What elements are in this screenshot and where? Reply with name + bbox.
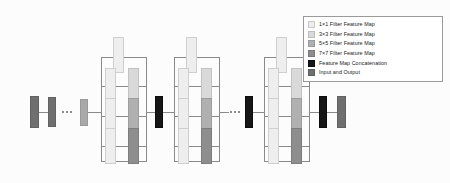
legend-swatch-concatenation: [308, 60, 315, 67]
legend-swatch-filter-1x1: [308, 21, 315, 28]
module-3-branch-7x7-reduce: [268, 128, 279, 164]
legend-label-filter-5x5: 5×5 Filter Feature Map: [319, 40, 375, 47]
module-1-branch-7x7-reduce: [105, 128, 116, 164]
legend-swatch-filter-5x5: [308, 40, 315, 47]
legend-label-concatenation: Feature Map Concatenation: [319, 60, 387, 67]
legend-label-filter-3x3: 3×3 Filter Feature Map: [319, 31, 375, 38]
ellipsis-module-2-to-3: [230, 111, 240, 113]
legend-swatch-filter-3x3: [308, 31, 315, 38]
input-block: [30, 96, 39, 128]
legend-item-filter-1x1: 1×1 Filter Feature Map: [308, 20, 438, 30]
wire-module-2-to-ellipsis: [219, 112, 229, 113]
wire-premodule-to-module-1: [88, 112, 101, 113]
module-2-branch-7x7-conv: [201, 128, 212, 164]
module-1-top-rail: [101, 57, 147, 58]
legend-label-filter-7x7: 7×7 Filter Feature Map: [319, 50, 375, 57]
legend-label-filter-1x1: 1×1 Filter Feature Map: [319, 21, 375, 28]
wire-concat-2-to-module-3: [253, 112, 264, 113]
legend-swatch-input-output: [308, 69, 315, 76]
figure-canvas: 1×1 Filter Feature Map 3×3 Filter Featur…: [0, 0, 450, 183]
pre-module-block: [80, 99, 88, 126]
legend-item-input-output: Input and Output: [308, 68, 438, 78]
legend-swatch-filter-7x7: [308, 50, 315, 57]
legend-item-filter-3x3: 3×3 Filter Feature Map: [308, 30, 438, 40]
legend-item-concatenation: Feature Map Concatenation: [308, 58, 438, 68]
wire-input-to-early: [39, 112, 48, 113]
concat-after-module-3: [319, 96, 327, 128]
module-2-top-rail: [174, 57, 220, 58]
early-layer-block: [48, 97, 56, 127]
concat-after-module-1: [155, 96, 163, 128]
wire-concat-3-to-output: [327, 112, 337, 113]
ellipsis-input-stack: [62, 111, 72, 113]
legend-box: 1×1 Filter Feature Map 3×3 Filter Featur…: [303, 16, 443, 82]
legend-item-filter-5x5: 5×5 Filter Feature Map: [308, 39, 438, 49]
wire-module-1-to-concat-1: [146, 112, 155, 113]
wire-concat-1-to-module-2: [163, 112, 174, 113]
output-block: [337, 96, 346, 128]
concat-after-module-2: [245, 96, 253, 128]
wire-module-3-to-concat-3: [309, 112, 319, 113]
legend-label-input-output: Input and Output: [319, 69, 360, 76]
module-1-branch-7x7-conv: [128, 128, 139, 164]
legend-item-filter-7x7: 7×7 Filter Feature Map: [308, 49, 438, 59]
module-3-branch-7x7-conv: [291, 128, 302, 164]
module-2-branch-7x7-reduce: [178, 128, 189, 164]
